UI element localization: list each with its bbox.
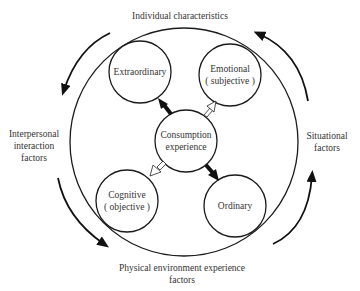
factor-physical-environment: Physical environment experience factors [0,262,360,286]
arrow-to-cognitive [150,161,166,176]
node-ordinary-label: Ordinary [218,200,252,212]
factor-bottom-line1: Physical environment experience [0,262,360,274]
node-cognitive-text: Cognitive [104,189,150,201]
factor-individual-characteristics: Individual characteristics [0,10,360,22]
cycle-arrow-bottom-right [273,176,312,244]
node-extraordinary-label: Extraordinary [114,66,167,78]
factor-situational: Situational factors [298,130,356,154]
factor-left-line3: factors [4,152,64,164]
factor-right-line2: factors [298,142,356,154]
arrow-to-ordinary [206,165,219,181]
node-center-label: Consumption experience [160,129,211,153]
arrow-to-extraordinary [158,98,171,114]
factor-left-line1: Interpersonal [4,128,64,140]
node-ordinary-text: Ordinary [218,200,252,212]
node-emotional-subtext: ( subjective ) [205,75,255,87]
factor-bottom-line2: factors [0,274,360,286]
factor-right-line1: Situational [298,130,356,142]
node-center-text: Consumption [160,129,211,141]
arrow-to-emotional [204,101,216,117]
factor-top-text: Individual characteristics [132,11,228,21]
cycle-arrow-top-right [259,34,308,101]
factor-interpersonal-interaction: Interpersonal interaction factors [4,128,64,164]
node-center-subtext: experience [160,141,211,153]
node-emotional-label: Emotional ( subjective ) [205,63,255,87]
node-cognitive-label: Cognitive ( objective ) [104,189,150,213]
node-emotional-text: Emotional [205,63,255,75]
factor-left-line2: interaction [4,140,64,152]
node-extraordinary-text: Extraordinary [114,66,167,78]
node-cognitive-subtext: ( objective ) [104,201,150,213]
